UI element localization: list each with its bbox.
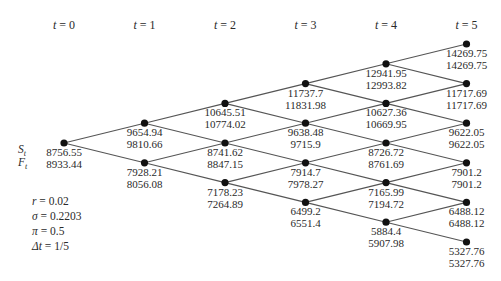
futures-value: 6551.4: [290, 217, 321, 229]
time-header-t5: t = 5: [455, 18, 477, 32]
spot-value: 11737.7: [288, 87, 324, 99]
spot-value: 9654.94: [127, 126, 163, 138]
row-legend: St Ft: [17, 143, 28, 171]
futures-value: 7264.89: [207, 198, 243, 210]
futures-value: 5327.76: [449, 257, 485, 269]
spot-value: 5884.4: [371, 225, 402, 237]
tree-nodes: [60, 40, 470, 245]
parameter-2: π = 0.5: [32, 225, 65, 237]
futures-value: 9622.05: [449, 138, 485, 150]
futures-value: 12993.82: [365, 79, 406, 91]
spot-value: 11717.69: [446, 87, 487, 99]
futures-value: 11831.98: [285, 99, 326, 111]
futures-value: 7194.72: [368, 198, 404, 210]
time-header-t4: t = 4: [375, 18, 397, 32]
futures-value: 6488.12: [449, 217, 485, 229]
spot-value: 8726.72: [368, 146, 404, 158]
spot-value: 7165.99: [368, 186, 404, 198]
spot-value: 5327.76: [449, 245, 485, 257]
spot-value: 7178.23: [207, 186, 243, 198]
spot-value: 9638.48: [288, 126, 324, 138]
spot-value: 8741.62: [207, 146, 243, 158]
futures-price-label: Ft: [17, 156, 28, 171]
futures-value: 9715.9: [290, 138, 321, 150]
futures-value: 7901.2: [451, 178, 481, 190]
parameter-list: r = 0.02σ = 0.2203π = 0.5Δt = 1/5: [31, 195, 82, 252]
futures-value: 8056.08: [127, 178, 163, 190]
futures-value: 9810.66: [127, 138, 163, 150]
parameter-1: σ = 0.2203: [32, 210, 82, 222]
node-labels: 8756.558933.449654.949810.667928.218056.…: [46, 47, 488, 269]
futures-value: 7978.27: [288, 178, 324, 190]
futures-value: 10774.02: [204, 118, 245, 130]
time-header-t3: t = 3: [294, 18, 316, 32]
spot-value: 12941.95: [365, 67, 407, 79]
spot-value: 6488.12: [449, 205, 485, 217]
spot-value: 10645.51: [204, 106, 245, 118]
futures-value: 5907.98: [368, 237, 404, 249]
spot-value: 10627.36: [365, 106, 407, 118]
spot-value: 9622.05: [449, 126, 485, 138]
futures-value: 8761.69: [368, 158, 404, 170]
spot-value: 8756.55: [46, 146, 82, 158]
futures-value: 10669.95: [365, 118, 407, 130]
spot-value: 7914.7: [290, 166, 321, 178]
futures-value: 14269.75: [446, 59, 488, 71]
spot-value: 6499.2: [290, 205, 320, 217]
time-header-t1: t = 1: [133, 18, 155, 32]
parameter-0: r = 0.02: [32, 195, 69, 207]
time-header-t2: t = 2: [214, 18, 236, 32]
spot-value: 14269.75: [446, 47, 488, 59]
parameter-3: Δt = 1/5: [31, 240, 69, 252]
futures-value: 8933.44: [46, 158, 82, 170]
time-headers: t = 0t = 1t = 2t = 3t = 4t = 5: [53, 18, 478, 32]
time-header-t0: t = 0: [53, 18, 75, 32]
futures-value: 8847.15: [207, 158, 243, 170]
futures-value: 11717.69: [446, 99, 487, 111]
spot-value: 7928.21: [127, 166, 163, 178]
spot-value: 7901.2: [451, 166, 481, 178]
binomial-tree-diagram: t = 0t = 1t = 2t = 3t = 4t = 5 8756.5589…: [0, 0, 501, 281]
